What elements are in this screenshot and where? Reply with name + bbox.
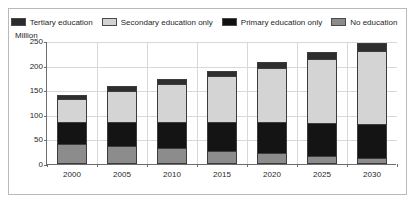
x-tick-mark	[297, 164, 298, 167]
legend-label: Secondary education only	[121, 18, 213, 27]
bar-segment	[208, 123, 236, 152]
x-gridline	[97, 42, 98, 165]
x-gridline	[147, 42, 148, 165]
bar-segment	[108, 147, 136, 163]
bar-segment	[108, 123, 136, 147]
bar-segment	[358, 44, 386, 51]
bar-segment	[158, 149, 186, 163]
legend-item[interactable]: Tertiary education	[11, 18, 93, 27]
y-tick-label: 0	[39, 161, 43, 169]
x-tick-mark	[197, 164, 198, 167]
bar-segment	[358, 125, 386, 159]
bar-segment	[308, 124, 336, 157]
bar-segment	[58, 145, 86, 163]
bar-segment	[358, 159, 386, 163]
y-gridline	[47, 42, 397, 43]
bar-2020[interactable]	[257, 62, 287, 164]
y-tick-label: 100	[30, 112, 43, 120]
bar-segment	[108, 92, 136, 123]
x-tick-label: 2020	[263, 170, 281, 179]
y-tick-mark	[44, 91, 47, 92]
x-gridline	[197, 42, 198, 165]
x-gridline	[297, 42, 298, 165]
x-tick-mark	[97, 164, 98, 167]
bar-segment	[208, 152, 236, 163]
legend-label: Primary education only	[241, 18, 322, 27]
y-tick-label: 50	[34, 136, 43, 144]
y-tick-mark	[44, 140, 47, 141]
legend-swatch-icon	[222, 18, 237, 26]
y-gridline	[47, 67, 397, 68]
bar-segment	[358, 52, 386, 125]
bar-segment	[258, 123, 286, 155]
x-tick-label: 2000	[63, 170, 81, 179]
y-tick-label: 250	[30, 38, 43, 46]
x-tick-mark	[47, 164, 48, 167]
plot-area: 0501001502002502000200520102015202020252…	[46, 42, 396, 165]
legend-swatch-icon	[11, 18, 26, 26]
bar-segment	[58, 100, 86, 123]
legend-item[interactable]: No education	[331, 18, 397, 27]
bar-segment	[308, 60, 336, 124]
x-tick-label: 2005	[113, 170, 131, 179]
y-tick-label: 150	[30, 87, 43, 95]
x-tick-label: 2010	[163, 170, 181, 179]
x-gridline	[247, 42, 248, 165]
bar-2005[interactable]	[107, 86, 137, 164]
x-gridline	[347, 42, 348, 165]
y-tick-mark	[44, 42, 47, 43]
y-tick-mark	[44, 116, 47, 117]
x-tick-mark	[347, 164, 348, 167]
y-tick-label: 200	[30, 63, 43, 71]
bar-segment	[58, 123, 86, 145]
legend-swatch-icon	[331, 18, 346, 26]
x-tick-label: 2015	[213, 170, 231, 179]
legend-label: Tertiary education	[30, 18, 93, 27]
x-tick-mark	[147, 164, 148, 167]
x-tick-mark	[247, 164, 248, 167]
chart-figure: Tertiary educationSecondary education on…	[8, 8, 407, 195]
legend-item[interactable]: Primary education only	[222, 18, 322, 27]
x-tick-mark	[397, 164, 398, 167]
bar-segment	[258, 69, 286, 123]
legend-label: No education	[350, 18, 397, 27]
bar-segment	[158, 85, 186, 122]
bar-segment	[258, 154, 286, 163]
bar-segment	[308, 157, 336, 163]
x-tick-label: 2030	[363, 170, 381, 179]
bar-2030[interactable]	[357, 43, 387, 164]
bar-segment	[158, 123, 186, 150]
legend-item[interactable]: Secondary education only	[102, 18, 213, 27]
bar-2000[interactable]	[57, 95, 87, 164]
y-tick-mark	[44, 67, 47, 68]
bar-2015[interactable]	[207, 71, 237, 164]
bar-2010[interactable]	[157, 79, 187, 164]
bar-segment	[208, 77, 236, 123]
chart-legend: Tertiary educationSecondary education on…	[9, 15, 408, 29]
bar-2025[interactable]	[307, 52, 337, 164]
legend-swatch-icon	[102, 18, 117, 26]
x-tick-label: 2025	[313, 170, 331, 179]
